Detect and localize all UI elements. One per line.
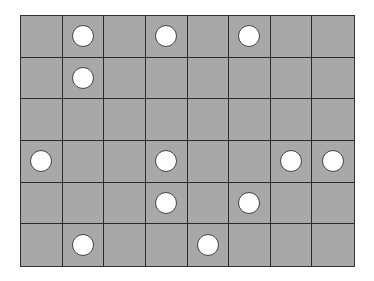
board-cell-r5-c5[interactable] — [229, 224, 271, 266]
white-piece-icon[interactable] — [322, 150, 344, 172]
white-piece-icon[interactable] — [155, 150, 177, 172]
white-piece-icon[interactable] — [155, 25, 177, 47]
board-cell-r3-c3[interactable] — [146, 141, 188, 183]
board-cell-r4-c2[interactable] — [104, 183, 146, 225]
white-piece-icon[interactable] — [280, 150, 302, 172]
board-cell-r1-c4[interactable] — [188, 58, 230, 100]
board-cell-r0-c0[interactable] — [21, 16, 63, 58]
board-cell-r2-c1[interactable] — [63, 99, 105, 141]
board-cell-r0-c6[interactable] — [271, 16, 313, 58]
board-cell-r3-c2[interactable] — [104, 141, 146, 183]
board-cell-r2-c2[interactable] — [104, 99, 146, 141]
board-cell-r5-c6[interactable] — [271, 224, 313, 266]
board-cell-r4-c5[interactable] — [229, 183, 271, 225]
board-cell-r3-c1[interactable] — [63, 141, 105, 183]
white-piece-icon[interactable] — [238, 192, 260, 214]
board-cell-r5-c1[interactable] — [63, 224, 105, 266]
board-cell-r3-c6[interactable] — [271, 141, 313, 183]
board-cell-r3-c5[interactable] — [229, 141, 271, 183]
white-piece-icon[interactable] — [72, 67, 94, 89]
board-cell-r1-c6[interactable] — [271, 58, 313, 100]
board-cell-r1-c7[interactable] — [312, 58, 354, 100]
board-cell-r2-c0[interactable] — [21, 99, 63, 141]
white-piece-icon[interactable] — [30, 150, 52, 172]
white-piece-icon[interactable] — [155, 192, 177, 214]
board-cell-r4-c7[interactable] — [312, 183, 354, 225]
white-piece-icon[interactable] — [72, 234, 94, 256]
board-cell-r5-c3[interactable] — [146, 224, 188, 266]
board-cell-r2-c3[interactable] — [146, 99, 188, 141]
board-cell-r0-c4[interactable] — [188, 16, 230, 58]
board-cell-r5-c7[interactable] — [312, 224, 354, 266]
board-cell-r1-c5[interactable] — [229, 58, 271, 100]
board-cell-r1-c0[interactable] — [21, 58, 63, 100]
board-cell-r1-c1[interactable] — [63, 58, 105, 100]
board-cell-r1-c2[interactable] — [104, 58, 146, 100]
board-cell-r3-c7[interactable] — [312, 141, 354, 183]
board-cell-r3-c4[interactable] — [188, 141, 230, 183]
board-cell-r4-c6[interactable] — [271, 183, 313, 225]
board-cell-r2-c5[interactable] — [229, 99, 271, 141]
board-cell-r2-c7[interactable] — [312, 99, 354, 141]
board-cell-r5-c4[interactable] — [188, 224, 230, 266]
board-cell-r5-c2[interactable] — [104, 224, 146, 266]
white-piece-icon[interactable] — [197, 234, 219, 256]
board-cell-r0-c1[interactable] — [63, 16, 105, 58]
board-cell-r5-c0[interactable] — [21, 224, 63, 266]
board-cell-r2-c4[interactable] — [188, 99, 230, 141]
board-cell-r0-c5[interactable] — [229, 16, 271, 58]
board-cell-r4-c1[interactable] — [63, 183, 105, 225]
board-cell-r4-c0[interactable] — [21, 183, 63, 225]
board-cell-r2-c6[interactable] — [271, 99, 313, 141]
board-cell-r0-c3[interactable] — [146, 16, 188, 58]
board-cell-r3-c0[interactable] — [21, 141, 63, 183]
white-piece-icon[interactable] — [72, 25, 94, 47]
board-cell-r1-c3[interactable] — [146, 58, 188, 100]
board-cell-r0-c7[interactable] — [312, 16, 354, 58]
game-board — [20, 15, 355, 267]
board-cell-r4-c4[interactable] — [188, 183, 230, 225]
board-cell-r0-c2[interactable] — [104, 16, 146, 58]
white-piece-icon[interactable] — [238, 25, 260, 47]
board-cell-r4-c3[interactable] — [146, 183, 188, 225]
